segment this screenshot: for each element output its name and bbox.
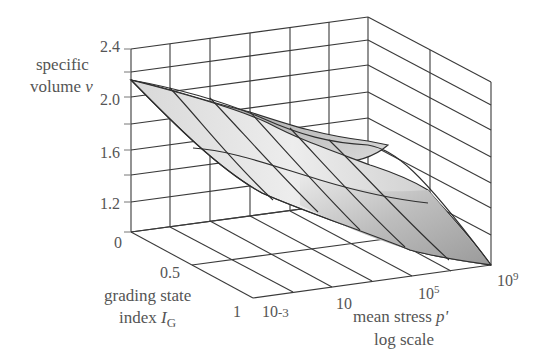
z-axis-title-text: volume <box>30 77 85 96</box>
surface <box>131 80 491 265</box>
x-axis-title-line1: mean stress p' <box>353 308 448 326</box>
x-tick-1e-3: 10-3 <box>262 303 289 322</box>
y-axis-title-line1: grading state <box>104 287 191 305</box>
z-axis-title-line1: specific <box>36 56 89 74</box>
chart-root: specific volume v 2.4 2.0 1.6 1.2 0 0.5 … <box>0 0 553 361</box>
z-tick-2.4: 2.4 <box>100 38 120 56</box>
x-tick-4-exp: 9 <box>513 270 519 282</box>
z-tick-1.6: 1.6 <box>100 144 120 162</box>
x-axis-variable: p' <box>436 307 448 326</box>
z-tick-2.0: 2.0 <box>100 91 120 109</box>
y-axis-title-line2: index IG <box>119 309 176 327</box>
x-tick-1e9: 109 <box>497 272 519 290</box>
z-tick-1.2: 1.2 <box>100 195 120 213</box>
x-tick-3-exp: 5 <box>434 283 440 295</box>
x-axis-title-line2: log scale <box>374 331 434 349</box>
y-tick-1: 1 <box>233 303 241 321</box>
tick-marks <box>124 49 131 232</box>
z-tick-0: 0 <box>114 234 122 252</box>
y-axis-title-text: index <box>119 308 161 327</box>
z-axis-variable: v <box>85 77 93 96</box>
x-tick-1e5: 105 <box>418 285 440 303</box>
y-tick-0.5: 0.5 <box>160 264 180 282</box>
x-tick-4-base: 10 <box>497 272 513 289</box>
x-tick-10: 10 <box>336 295 352 313</box>
x-axis-title-text: mean stress <box>353 307 436 326</box>
z-axis-title-line2: volume v <box>30 78 93 96</box>
x-tick-1-base: 10 <box>262 303 278 320</box>
x-tick-3-base: 10 <box>418 285 434 302</box>
x-tick-1-exp: -3 <box>278 305 289 320</box>
y-axis-subscript: G <box>167 315 176 330</box>
